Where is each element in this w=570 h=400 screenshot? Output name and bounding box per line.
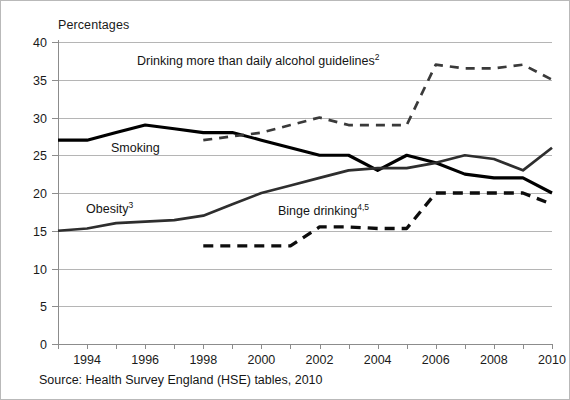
series-label-binge: Binge drinking4,5: [278, 202, 369, 218]
x-tick-label-2008: 2008: [480, 353, 508, 367]
y-tick-label-15: 15: [33, 225, 47, 239]
x-tick-label-2004: 2004: [364, 353, 392, 367]
y-tick-label-35: 35: [33, 74, 47, 88]
y-tick-labels-group: 0510152025303540: [33, 36, 47, 352]
y-tick-label-0: 0: [40, 338, 47, 352]
chart-plot-area: 0510152025303540 19941996199820002002200…: [1, 1, 570, 400]
source-note: Source: Health Survey England (HSE) tabl…: [39, 373, 323, 387]
y-tick-label-40: 40: [33, 36, 47, 50]
y-tick-label-5: 5: [40, 300, 47, 314]
series-line-obesity: [58, 148, 552, 231]
x-tick-label-2000: 2000: [248, 353, 276, 367]
line-chart-svg: 0510152025303540 19941996199820002002200…: [1, 1, 570, 400]
x-tick-label-2010: 2010: [538, 353, 566, 367]
x-tick-label-2006: 2006: [422, 353, 450, 367]
chart-figure: Percentages 0510152025303540 19941996199…: [0, 0, 570, 400]
x-tick-label-1996: 1996: [131, 353, 159, 367]
tickmarks-group: [52, 43, 553, 350]
series-line-binge-drinking: [203, 193, 552, 246]
x-tick-labels-group: 199419961998200020022004200620082010: [73, 353, 566, 367]
series-line-alcohol-guidelines: [203, 65, 552, 140]
y-tick-label-20: 20: [33, 187, 47, 201]
series-label-alcohol: Drinking more than daily alcohol guideli…: [137, 52, 380, 68]
y-tick-label-25: 25: [33, 149, 47, 163]
series-label-smoking: Smoking: [111, 141, 160, 155]
y-tick-label-10: 10: [33, 263, 47, 277]
x-tick-label-1994: 1994: [73, 353, 101, 367]
x-tick-label-1998: 1998: [189, 353, 217, 367]
series-label-obesity: Obesity3: [86, 200, 133, 216]
x-tick-label-2002: 2002: [306, 353, 334, 367]
y-tick-label-30: 30: [33, 112, 47, 126]
